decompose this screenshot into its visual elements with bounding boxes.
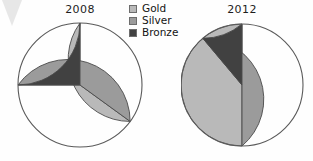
pie-chart-figure: 2008 2012 Gold Silver Bronze xyxy=(0,0,313,161)
pie-chart-2012 xyxy=(181,20,305,151)
pie-2012-svg xyxy=(181,20,305,151)
legend-swatch-silver-icon xyxy=(129,17,137,25)
legend-item-gold: Gold xyxy=(129,3,191,14)
pie-chart-2008 xyxy=(17,20,145,151)
legend-item-silver: Silver xyxy=(129,15,191,26)
legend-swatch-gold-icon xyxy=(129,5,137,13)
legend-label-bronze: Bronze xyxy=(142,27,178,38)
pie-title-2012: 2012 xyxy=(214,3,270,16)
chart-legend: Gold Silver Bronze xyxy=(129,3,191,38)
legend-label-gold: Gold xyxy=(142,3,166,14)
pie-title-2008: 2008 xyxy=(52,3,108,16)
legend-swatch-bronze-icon xyxy=(129,29,137,37)
legend-label-silver: Silver xyxy=(142,15,172,26)
pie-2008-svg xyxy=(17,20,145,151)
legend-item-bronze: Bronze xyxy=(129,27,191,38)
